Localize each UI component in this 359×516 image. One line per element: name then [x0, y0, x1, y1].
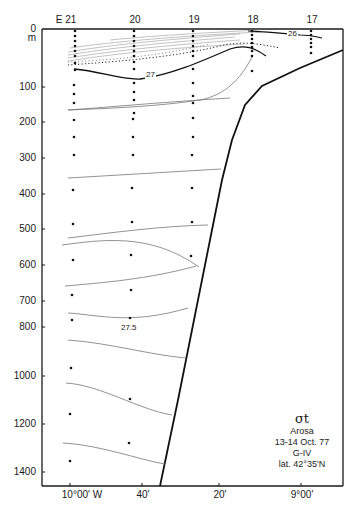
x-tick-40: 40' [136, 490, 149, 500]
contour-27 [74, 47, 266, 79]
legend-ship: Arosa [262, 426, 342, 437]
x-tick-9-00: 9°00' [291, 490, 314, 500]
station-18-samples [251, 30, 254, 73]
y-tick-600: 600 [0, 260, 36, 270]
surface-contours [68, 30, 260, 61]
contour-label-26: 26 [287, 30, 298, 38]
y-tick-800: 800 [0, 322, 36, 332]
legend-latitude: lat. 42°35'N [262, 459, 342, 470]
y-tick-1000: 1000 [0, 371, 36, 381]
x-tick-20: 20' [213, 490, 226, 500]
y-tick-400: 400 [0, 189, 36, 199]
contour-label-27-5: 27.5 [120, 324, 138, 332]
station-17-samples [310, 30, 313, 55]
y-tick-300: 300 [0, 153, 36, 163]
station-20-samples [128, 30, 136, 445]
legend-date: 13-14 Oct. 77 [262, 437, 342, 448]
station-label-20: 20 [129, 15, 140, 25]
y-tick-100: 100 [0, 82, 36, 92]
dotted-contour [68, 43, 280, 65]
y-tick-700: 700 [0, 296, 36, 306]
y-tick-1400: 1400 [0, 467, 36, 477]
station-label-17: 17 [306, 15, 317, 25]
sigma-t-symbol: σt [262, 412, 342, 426]
y-tick-500: 500 [0, 224, 36, 234]
deep-contours [62, 98, 230, 464]
legend-section: G-IV [262, 448, 342, 459]
y-tick-1200: 1200 [0, 419, 36, 429]
contour-label-27: 27 [145, 71, 156, 79]
contour-shelf [68, 57, 252, 110]
station-label-21: E 21 [56, 15, 77, 25]
dotted-contour-2 [68, 44, 210, 62]
y-unit: m [0, 33, 36, 43]
station-21-samples [69, 30, 77, 463]
station-label-19: 19 [188, 15, 199, 25]
y-tick-200: 200 [0, 117, 36, 127]
x-tick-10-00w: 10°00' W [62, 490, 102, 500]
station-label-18: 18 [247, 15, 258, 25]
legend-box: σt Arosa 13-14 Oct. 77 G-IV lat. 42°35'N [262, 412, 342, 470]
